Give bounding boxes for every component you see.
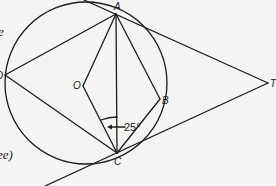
angle-label: 25°	[124, 121, 141, 133]
tangent-line-TC	[45, 83, 268, 186]
tangent-line-TA	[84, 0, 268, 83]
label-T: T	[270, 78, 276, 89]
radius-OC	[83, 86, 117, 153]
cut-off-text-bottom: ee)	[0, 147, 13, 162]
geometry-diagram: A B C D O T 25° e ee)	[0, 0, 276, 186]
chord-DC	[5, 75, 117, 153]
label-A: A	[113, 1, 121, 12]
label-C: C	[114, 156, 122, 167]
radius-OA	[83, 14, 116, 86]
label-D: D	[0, 70, 3, 81]
chord-DA	[5, 14, 116, 75]
label-B: B	[162, 95, 169, 106]
chord-AB	[116, 14, 160, 99]
angle-arc	[101, 117, 117, 120]
chord-AC	[116, 14, 117, 153]
label-O: O	[73, 80, 81, 91]
angle-arrow-head	[107, 125, 112, 130]
cut-off-text-top: e	[0, 24, 4, 39]
